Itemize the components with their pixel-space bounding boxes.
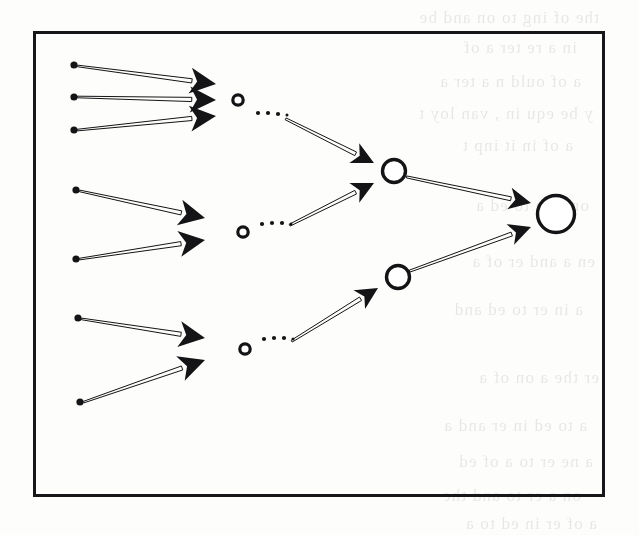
arrow-head [507, 224, 531, 245]
edge-shaft [291, 297, 361, 342]
ellipsis-dot [276, 112, 280, 116]
edge-shaft [84, 366, 183, 403]
ellipsis-dot [286, 114, 289, 117]
edge-shaft [410, 232, 513, 272]
edges-level1-to-level2 [286, 118, 378, 342]
level2-node-circle [387, 266, 410, 289]
ellipsis-dot [280, 221, 284, 225]
level1-node-circle [240, 344, 250, 354]
edge-shaft [78, 116, 192, 130]
leaf-input-dot [76, 398, 83, 405]
root-node-circle [538, 196, 575, 233]
ellipsis-dot [266, 111, 270, 115]
edge-shaft [82, 318, 181, 336]
ellipsis-dot [260, 222, 264, 226]
scanned-figure-page: the of ing to on and bein a re ter a ofa… [0, 0, 639, 535]
leaf-input-dot [74, 314, 81, 321]
edge-shaft [78, 65, 192, 83]
level1-node-circle [238, 227, 248, 237]
arrow-head [349, 183, 374, 203]
leaf-input-dot [70, 61, 77, 68]
ellipsis-dot-groups [256, 111, 295, 341]
arrow-head [176, 356, 205, 381]
leaf-input-dots [70, 61, 83, 405]
arrow-head [189, 106, 216, 132]
edge-shaft [78, 96, 192, 101]
edges-leaves-to-level1 [78, 65, 216, 403]
leaf-input-dot [70, 126, 77, 133]
ellipsis-dot [272, 336, 276, 340]
level1-nodes [233, 95, 250, 354]
level1-node-circle [233, 95, 243, 105]
leaf-input-dot [72, 255, 79, 262]
hierarchical-aggregation-diagram [0, 0, 639, 535]
arrow-head [349, 143, 374, 163]
ellipsis-dot [262, 337, 266, 341]
edge-shaft [286, 118, 357, 156]
edge-shaft [407, 176, 512, 201]
level2-node-circle [383, 160, 406, 183]
ellipsis-dot [292, 338, 295, 341]
leaf-input-dot [70, 93, 77, 100]
leaf-input-dot [72, 186, 79, 193]
ellipsis-dot [282, 336, 286, 340]
ellipsis-dot [256, 111, 260, 115]
ellipsis-dot [290, 223, 293, 226]
ellipsis-dot [270, 221, 274, 225]
edge-shaft [290, 190, 357, 226]
edges-level2-to-root [407, 176, 531, 272]
root-output-node [538, 196, 575, 233]
edge-shaft [80, 190, 182, 215]
level2-nodes [383, 160, 410, 289]
edge-shaft [80, 242, 181, 260]
